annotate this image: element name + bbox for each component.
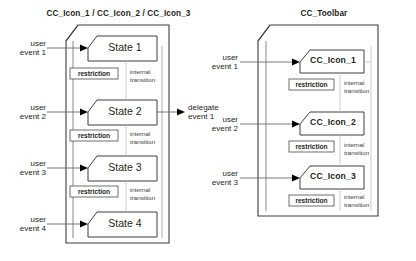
states-input-label-1-line2: event 1 — [2, 48, 46, 57]
toolbar-internal-transition-label-1: internal transition — [344, 79, 380, 96]
restriction-label-1: restriction — [70, 70, 118, 78]
toolbar-title-leader — [258, 25, 270, 41]
internal-transition-label-3-line2: transition — [130, 194, 166, 202]
icon-label-2: CC_Icon_2 — [304, 118, 362, 128]
internal-transition-label-1: internal transition — [130, 68, 166, 85]
toolbar-input-label-2-line2: event 2 — [194, 124, 238, 133]
toolbar-input-arrowheads — [292, 59, 300, 182]
internal-transition-label-3: internal transition — [130, 186, 166, 203]
states-input-label-2-line1: user — [30, 103, 46, 112]
states-input-label-4-line2: event 4 — [2, 224, 46, 233]
toolbar-internal-transition-label-1-line1: internal — [344, 79, 364, 86]
restriction-label-2: restriction — [70, 132, 118, 140]
restriction-label-3: restriction — [70, 188, 118, 196]
toolbar-input-label-1: user event 1 — [194, 53, 238, 71]
toolbar-internal-transition-label-2-line2: transition — [344, 149, 380, 157]
internal-transition-label-3-line1: internal — [130, 186, 150, 193]
toolbar-input-arrows — [240, 62, 295, 178]
icon-label-3: CC_Icon_3 — [304, 172, 362, 182]
state-label-2: State 2 — [96, 105, 154, 117]
toolbar-internal-transition-label-2: internal transition — [344, 141, 380, 158]
states-input-label-1: user event 1 — [2, 39, 46, 57]
internal-transition-label-2-line2: transition — [130, 138, 166, 146]
states-input-label-1-line1: user — [30, 39, 46, 48]
toolbar-input-label-3-line1: user — [222, 169, 238, 178]
state-label-4: State 4 — [96, 217, 154, 229]
state-label-1: State 1 — [96, 41, 154, 53]
toolbar-internal-transition-label-3: internal transition — [344, 193, 380, 210]
internal-transition-label-1-line1: internal — [130, 68, 150, 75]
toolbar-internal-transition-label-3-line2: transition — [344, 201, 380, 209]
states-output-label-1-line1: delegate — [188, 103, 219, 112]
toolbar-internal-transition-label-3-line1: internal — [344, 193, 364, 200]
states-input-label-3: user event 3 — [2, 159, 46, 177]
states-input-label-2: user event 2 — [2, 103, 46, 121]
internal-transition-label-1-line2: transition — [130, 76, 166, 84]
toolbar-internal-transition-label-2-line1: internal — [344, 141, 364, 148]
diagram-canvas: CC_Icon_1 / CC_Icon_2 / CC_Icon_3 user e… — [0, 0, 416, 261]
states-title-leader — [66, 25, 78, 41]
toolbar-input-label-2-line1: user — [222, 115, 238, 124]
toolbar-panel-title: CC_Toolbar — [288, 9, 360, 18]
toolbar-input-label-3: user event 3 — [194, 169, 238, 187]
states-input-label-2-line2: event 2 — [2, 112, 46, 121]
states-input-label-3-line1: user — [30, 159, 46, 168]
states-input-label-4: user event 4 — [2, 215, 46, 233]
states-input-label-3-line2: event 3 — [2, 168, 46, 177]
toolbar-input-label-3-line2: event 3 — [194, 178, 238, 187]
icon-label-1: CC_Icon_1 — [304, 56, 362, 66]
toolbar-input-label-1-line2: event 1 — [194, 62, 238, 71]
internal-transition-label-2-line1: internal — [130, 130, 150, 137]
internal-transition-label-2: internal transition — [130, 130, 166, 147]
toolbar-restriction-label-3: restriction — [289, 197, 334, 205]
toolbar-input-label-2: user event 2 — [194, 115, 238, 133]
state-label-3: State 3 — [96, 161, 154, 173]
states-output-arrowhead — [177, 109, 185, 116]
toolbar-restriction-label-2: restriction — [289, 143, 334, 151]
toolbar-restriction-label-1: restriction — [289, 81, 334, 89]
states-panel-title: CC_Icon_1 / CC_Icon_2 / CC_Icon_3 — [46, 9, 191, 18]
toolbar-input-label-1-line1: user — [222, 53, 238, 62]
states-input-label-4-line1: user — [30, 215, 46, 224]
toolbar-internal-transition-label-1-line2: transition — [344, 87, 380, 95]
